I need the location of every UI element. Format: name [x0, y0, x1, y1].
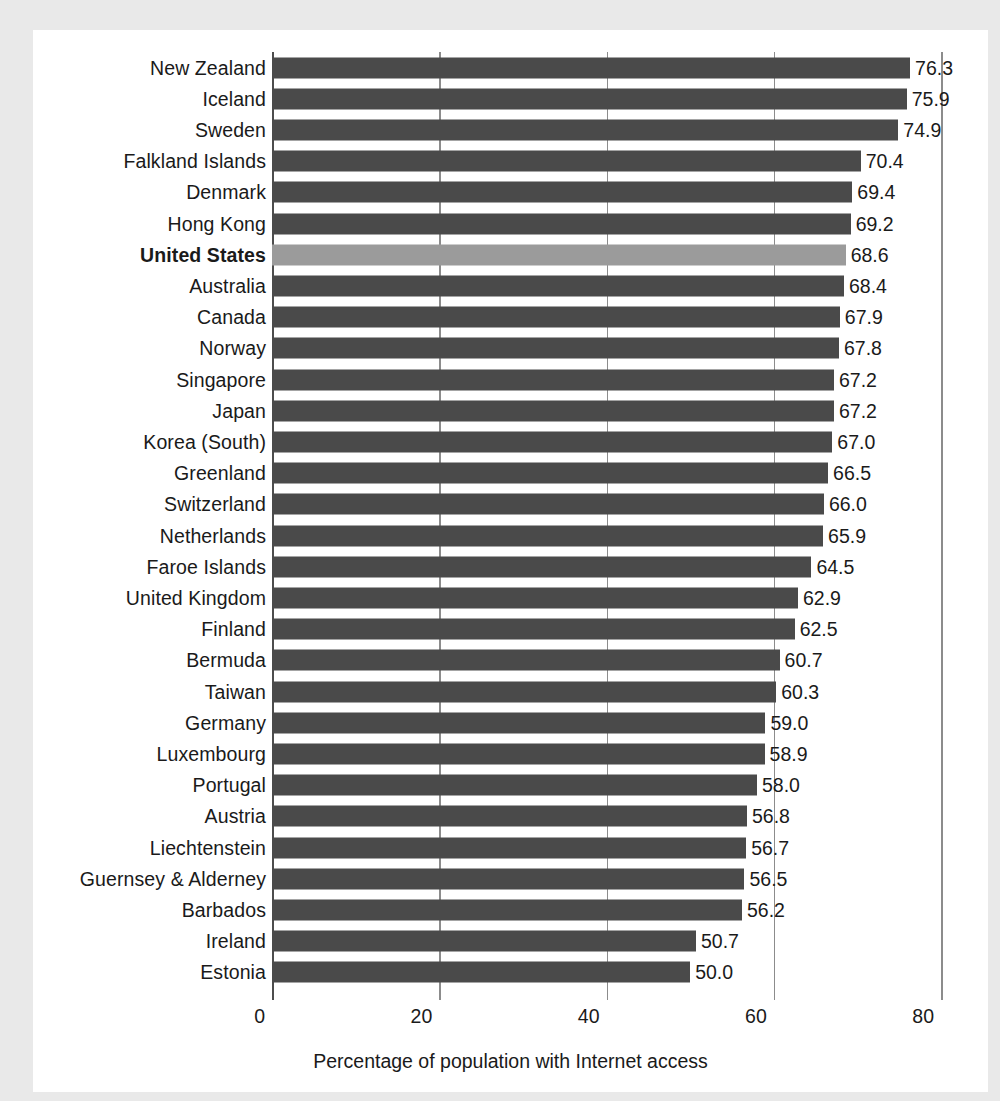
bar-row: Guernsey & Alderney56.5 — [33, 863, 988, 894]
category-label: Netherlands — [160, 524, 266, 547]
category-label: Greenland — [174, 462, 266, 485]
bar — [272, 931, 696, 952]
bar — [272, 400, 834, 421]
bar-value-label: 65.9 — [823, 524, 866, 547]
bar-value-label: 56.5 — [744, 867, 787, 890]
category-label: Canada — [197, 306, 266, 329]
bar-row: Norway67.8 — [33, 333, 988, 364]
bar-row: Estonia50.0 — [33, 957, 988, 988]
category-label: Guernsey & Alderney — [80, 867, 266, 890]
bar-value-label: 60.7 — [780, 649, 823, 672]
category-label: Faroe Islands — [147, 555, 266, 578]
bar — [272, 619, 795, 640]
bar — [272, 494, 824, 515]
bar-value-label: 67.2 — [834, 368, 877, 391]
bar-row: Austria56.8 — [33, 801, 988, 832]
bar-value-label: 62.5 — [795, 618, 838, 641]
chart-plot-area: New Zealand76.3Iceland75.9Sweden74.9Falk… — [33, 30, 988, 1092]
bar-value-label: 68.6 — [846, 243, 889, 266]
bar-row: Ireland50.7 — [33, 926, 988, 957]
bar — [272, 338, 839, 359]
category-label: Portugal — [193, 774, 266, 797]
bar-row: Iceland75.9 — [33, 83, 988, 114]
bar-row: Hong Kong69.2 — [33, 208, 988, 239]
bar-value-label: 50.0 — [690, 961, 733, 984]
category-label: Germany — [185, 711, 266, 734]
bar-value-label: 67.8 — [839, 337, 882, 360]
bar-value-label: 69.2 — [851, 212, 894, 235]
bar — [272, 837, 746, 858]
bar — [272, 119, 898, 140]
x-tick-label-80: 80 — [912, 1005, 941, 1028]
category-label: Japan — [212, 399, 266, 422]
bar — [272, 681, 776, 702]
bar-value-label: 70.4 — [861, 150, 904, 173]
bar — [272, 743, 765, 764]
bar-row: New Zealand76.3 — [33, 52, 988, 83]
bar — [272, 213, 851, 234]
bar-value-label: 74.9 — [898, 118, 941, 141]
bar-row: Netherlands65.9 — [33, 520, 988, 551]
bar-row: Bermuda60.7 — [33, 645, 988, 676]
bar — [272, 307, 840, 328]
bar — [272, 556, 811, 577]
bar — [272, 275, 844, 296]
bar — [272, 57, 910, 78]
bar-row: Faroe Islands64.5 — [33, 551, 988, 582]
bar-row: Singapore67.2 — [33, 364, 988, 395]
bar-row: United States68.6 — [33, 239, 988, 270]
x-tick-label-60: 60 — [745, 1005, 774, 1028]
bar-value-label: 66.0 — [824, 493, 867, 516]
bar-value-label: 67.9 — [840, 306, 883, 329]
bar — [272, 712, 765, 733]
bar-value-label: 67.0 — [832, 430, 875, 453]
category-label: Iceland — [202, 87, 266, 110]
bar — [272, 806, 747, 827]
bar-row: Canada67.9 — [33, 302, 988, 333]
bar — [272, 899, 742, 920]
category-label: Denmark — [186, 181, 266, 204]
bar — [272, 775, 757, 796]
bar-value-label: 67.2 — [834, 399, 877, 422]
bar-row: Falkland Islands70.4 — [33, 146, 988, 177]
category-label: United States — [140, 243, 266, 266]
chart-figure-panel: New Zealand76.3Iceland75.9Sweden74.9Falk… — [33, 30, 988, 1092]
bar-row: Switzerland66.0 — [33, 489, 988, 520]
bar-value-label: 69.4 — [852, 181, 895, 204]
category-label: Bermuda — [186, 649, 266, 672]
category-label: Australia — [189, 274, 266, 297]
bar-value-label: 66.5 — [828, 462, 871, 485]
bar-value-label: 60.3 — [776, 680, 819, 703]
category-label: Korea (South) — [143, 430, 266, 453]
category-label: Singapore — [176, 368, 266, 391]
bar-row: Sweden74.9 — [33, 114, 988, 145]
category-label: Liechtenstein — [150, 836, 266, 859]
bar — [272, 369, 834, 390]
bar-value-label: 75.9 — [907, 87, 950, 110]
bar-value-label: 62.9 — [798, 586, 841, 609]
bar-value-label: 58.0 — [757, 774, 800, 797]
bar — [272, 962, 690, 983]
category-label: Hong Kong — [168, 212, 266, 235]
bar — [272, 463, 828, 484]
bar-row: Finland62.5 — [33, 614, 988, 645]
x-tick-label-0: 0 — [254, 1005, 272, 1028]
bar — [272, 587, 798, 608]
bar — [272, 88, 907, 109]
bar-value-label: 68.4 — [844, 274, 887, 297]
bar-value-label: 50.7 — [696, 930, 739, 953]
category-label: Taiwan — [205, 680, 266, 703]
category-label: Ireland — [206, 930, 266, 953]
category-label: Switzerland — [164, 493, 266, 516]
category-label: Norway — [199, 337, 266, 360]
category-label: Barbados — [182, 898, 266, 921]
bar — [272, 525, 823, 546]
category-label: Falkland Islands — [123, 150, 266, 173]
bar-row: Taiwan60.3 — [33, 676, 988, 707]
category-label: Estonia — [200, 961, 266, 984]
bar-row: Greenland66.5 — [33, 458, 988, 489]
bar — [272, 244, 846, 265]
bar-value-label: 76.3 — [910, 56, 953, 79]
category-label: United Kingdom — [126, 586, 266, 609]
x-axis-title: Percentage of population with Internet a… — [33, 1050, 988, 1073]
